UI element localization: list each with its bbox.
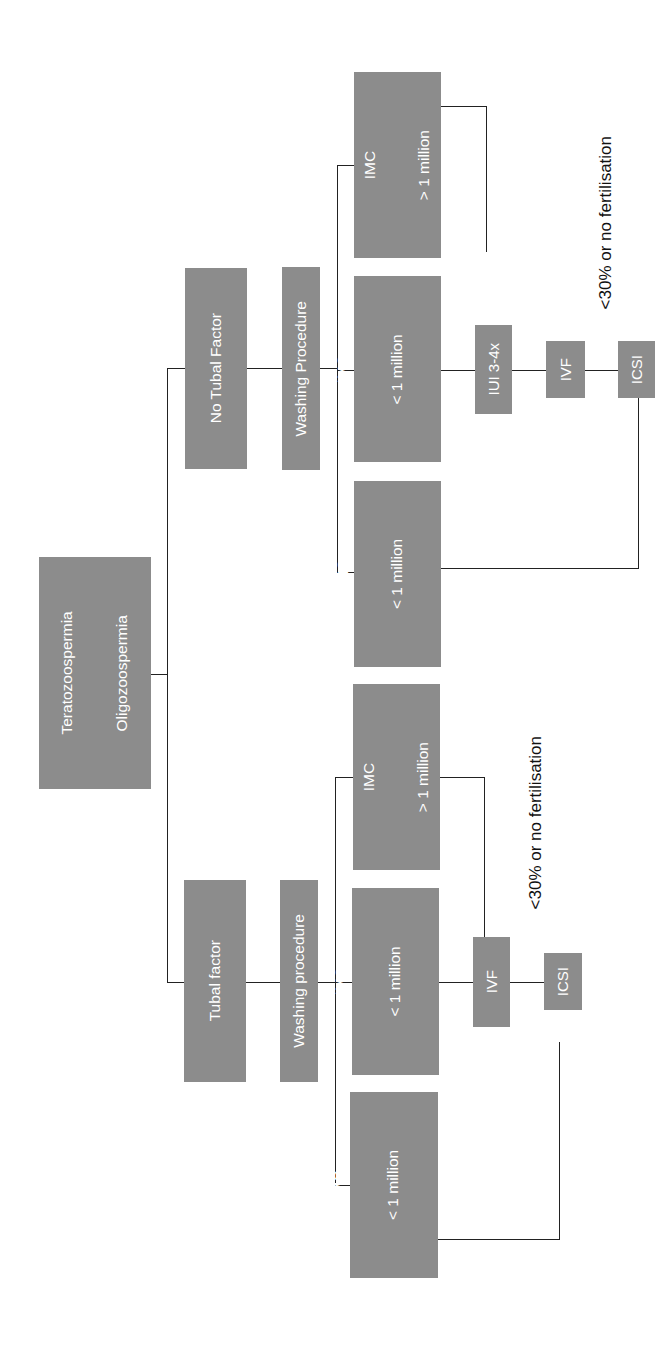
node-imc-gt1-text: IMC > 1 million — [324, 130, 470, 200]
root-line-1: Male Factor Subfertility — [4, 594, 22, 753]
note-text: <30% or no fertilisation — [597, 136, 614, 309]
text-line: < 1 million — [386, 921, 404, 1042]
text-line: < 1 million — [388, 513, 406, 634]
node-icsi-no-tubal: ICSI — [618, 341, 655, 398]
node-tubal-factor-label: Tubal factor — [206, 940, 224, 1021]
node-iui-label: IUI 3-4x — [485, 343, 503, 396]
node-icsi-tubal-label: ICSI — [554, 967, 572, 996]
text-line: IMC — [332, 921, 350, 1042]
connector-to-iui — [441, 370, 475, 371]
connector-ivf-icsi-tubal — [510, 982, 544, 983]
root-line-3: Oligozoospermia — [113, 594, 131, 753]
node-imc-lt1-morph-lt4-text: IMC < 1 million Morphology < 4% — [297, 513, 498, 634]
text-line: IMC — [334, 513, 352, 634]
root-line-2: Teratozoospermia — [58, 594, 76, 753]
note-fertilisation-tubal: <30% or no fertilisation — [522, 710, 548, 935]
node-ivf-no-tubal-label: IVF — [557, 358, 575, 381]
node-ivf-tubal-label: IVF — [483, 970, 501, 993]
connector-root-bus — [151, 674, 167, 675]
text-line: IMC — [334, 309, 352, 430]
text-line: Morphology ≥ 4% — [443, 309, 461, 430]
node-iui: IUI 3-4x — [475, 325, 512, 414]
connector-icsi-loop-back-no-tubal — [441, 568, 639, 569]
node-imc-lt1-morph-lt4-no-tubal: IMC < 1 million Morphology < 4% — [354, 481, 441, 667]
connector-iui-ivf — [512, 370, 546, 371]
node-imc-lt1-morph-ge4-no-tubal: IMC < 1 million Morphology ≥ 4% — [354, 276, 441, 462]
connector-imc-lt4-out-tubal — [438, 1239, 559, 1240]
connector-imc-gt1-out-no-tubal — [441, 106, 486, 107]
node-imc-lt1-morph-lt4-tubal: IMC < 1 million Morphology < 4% — [350, 1092, 438, 1278]
node-imc-lt1-morph-ge4-tubal: IMC < 1 million Morphology ≥ 4% — [352, 888, 439, 1075]
text-line: Morphology < 4% — [443, 513, 461, 634]
connector-imc-gt1-to-ivf-tubal — [484, 777, 485, 937]
node-icsi-tubal: ICSI — [544, 953, 582, 1010]
note-text: <30% or no fertilisation — [527, 736, 544, 909]
note-fertilisation-no-tubal: <30% or no fertilisation — [592, 110, 618, 335]
text-line: > 1 million — [415, 742, 433, 812]
node-ivf-tubal: IVF — [473, 937, 510, 1027]
node-imc-lt1-morph-ge4-text: IMC < 1 million Morphology ≥ 4% — [297, 309, 498, 430]
connector-imc-ge4-ivf-tubal — [439, 982, 473, 983]
node-icsi-no-tubal-label: ICSI — [628, 355, 646, 384]
text-line: IMC — [360, 742, 378, 812]
connector-to-no-tubal — [167, 368, 185, 369]
connector-imc-lt4-to-icsi-tubal — [559, 1042, 560, 1240]
root-node-male-factor-subfertility: Male Factor Subfertility Teratozoospermi… — [39, 557, 151, 789]
node-imc-gt1-million-tubal: IMC > 1 million — [353, 684, 440, 870]
text-line: < 1 million — [385, 1124, 403, 1245]
connector-tubal-washing — [246, 982, 280, 983]
node-imc-gt1-million-no-tubal: IMC > 1 million — [354, 72, 441, 258]
connector-no-tubal-washing — [247, 368, 282, 369]
connector-to-tubal — [167, 982, 185, 983]
connector-icsi-loop-down-no-tubal — [638, 398, 639, 568]
root-line-4: Astenozoospermia — [168, 594, 186, 753]
text-line: < 1 million — [388, 309, 406, 430]
text-line: IMC — [361, 130, 379, 200]
node-imc-lt1-morph-lt4-tubal-text: IMC < 1 million Morphology < 4% — [293, 1124, 494, 1245]
text-line: Morphology < 4% — [440, 1124, 458, 1245]
node-tubal-factor: Tubal factor — [184, 880, 246, 1082]
node-ivf-no-tubal: IVF — [546, 341, 585, 398]
connector-imc-gt1-down-no-tubal — [486, 106, 487, 252]
connector-main-bus — [167, 368, 168, 983]
connector-imc-gt1-out-tubal — [440, 777, 484, 778]
connector-ivf-icsi-no-tubal — [585, 370, 618, 371]
root-node-text: Male Factor Subfertility Teratozoospermi… — [0, 594, 223, 753]
text-line: IMC — [330, 1124, 348, 1245]
node-no-tubal-factor-label: No Tubal Factor — [207, 313, 225, 423]
node-no-tubal-factor: No Tubal Factor — [185, 268, 247, 469]
text-line: > 1 million — [416, 130, 434, 200]
